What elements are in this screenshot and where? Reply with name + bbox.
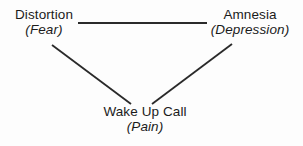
node-amnesia-label: Amnesia xyxy=(199,8,301,23)
node-wake-up-call-label: Wake Up Call xyxy=(85,105,205,120)
node-amnesia: Amnesia (Depression) xyxy=(199,8,301,37)
node-distortion-sublabel: (Fear) xyxy=(2,23,86,38)
node-distortion-label: Distortion xyxy=(2,8,86,23)
node-distortion: Distortion (Fear) xyxy=(2,8,86,37)
node-amnesia-sublabel: (Depression) xyxy=(199,23,301,38)
triangle-diagram: Distortion (Fear) Amnesia (Depression) W… xyxy=(0,0,303,146)
node-wake-up-call: Wake Up Call (Pain) xyxy=(85,105,205,134)
edge-amnesia-wake-up-call xyxy=(152,44,232,104)
edge-distortion-wake-up-call xyxy=(52,45,131,104)
node-wake-up-call-sublabel: (Pain) xyxy=(85,120,205,135)
